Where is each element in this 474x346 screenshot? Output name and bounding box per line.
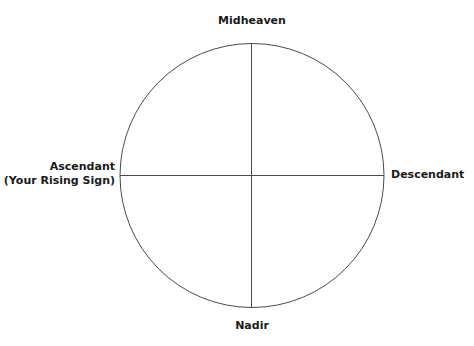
nadir-label: Nadir: [0, 319, 474, 333]
descendant-label: Descendant: [391, 168, 464, 182]
ascendant-label-subtitle: (Your Rising Sign): [4, 174, 115, 188]
ascendant-label: Ascendant (Your Rising Sign): [4, 160, 115, 188]
ascendant-label-title: Ascendant: [4, 160, 115, 174]
midheaven-label: Midheaven: [0, 14, 474, 28]
